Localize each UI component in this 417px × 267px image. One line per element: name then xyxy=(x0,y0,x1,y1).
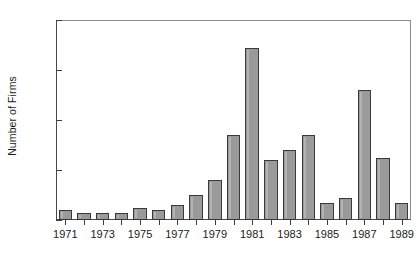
x-tick-mark xyxy=(84,220,85,225)
bar xyxy=(171,205,184,220)
bar xyxy=(152,210,165,220)
bar xyxy=(133,208,146,221)
bar xyxy=(227,135,240,220)
x-tick-mark xyxy=(140,220,141,225)
x-tick-mark xyxy=(215,220,216,225)
x-tick-mark xyxy=(103,220,104,225)
bar xyxy=(245,48,258,221)
x-tick-label: 1989 xyxy=(380,228,417,240)
bar xyxy=(208,180,221,220)
x-tick-mark xyxy=(327,220,328,225)
bar xyxy=(283,150,296,220)
bar xyxy=(77,213,90,221)
bar xyxy=(376,158,389,221)
x-tick-mark xyxy=(290,220,291,225)
bar xyxy=(339,198,352,221)
bar xyxy=(115,213,128,221)
y-axis-title: Number of Firms xyxy=(2,0,22,232)
bar xyxy=(395,203,408,221)
bar xyxy=(264,160,277,220)
x-tick-mark xyxy=(177,220,178,225)
bar xyxy=(59,210,72,220)
x-tick-mark xyxy=(271,220,272,225)
x-tick-mark xyxy=(252,220,253,225)
x-tick-mark xyxy=(383,220,384,225)
bars-layer xyxy=(56,20,411,220)
bar xyxy=(189,195,202,220)
y-tick-mark xyxy=(56,220,62,221)
x-tick-mark xyxy=(159,220,160,225)
x-tick-mark xyxy=(65,220,66,225)
x-tick-mark xyxy=(346,220,347,225)
bar xyxy=(96,213,109,221)
x-tick-mark xyxy=(196,220,197,225)
bar xyxy=(358,90,371,220)
x-tick-mark xyxy=(308,220,309,225)
x-tick-mark xyxy=(234,220,235,225)
bar xyxy=(320,203,333,221)
x-tick-mark xyxy=(402,220,403,225)
y-axis-title-label: Number of Firms xyxy=(6,76,18,156)
bar xyxy=(302,135,315,220)
x-tick-mark xyxy=(121,220,122,225)
x-tick-mark xyxy=(364,220,365,225)
bar-chart: Number of Firms 020406080 19711973197519… xyxy=(0,0,417,267)
